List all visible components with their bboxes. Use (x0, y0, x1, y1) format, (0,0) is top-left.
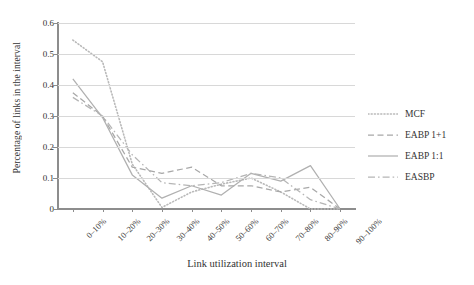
y-axis-ticks: 00.10.20.30.40.50.6 (26, 23, 54, 209)
legend-key-solid-icon (368, 151, 398, 161)
y-tick-label: 0.4 (28, 80, 54, 90)
x-tick-mark (251, 208, 252, 212)
y-axis-title-text: Percentage of links in the interval (12, 42, 22, 173)
x-tick-label: 20–30% (145, 216, 172, 243)
x-tick-mark (192, 208, 193, 212)
series-line (73, 97, 340, 209)
y-tick-label: 0 (28, 204, 54, 214)
x-tick-mark (221, 208, 222, 212)
legend-label: EABP 1+1 (405, 130, 446, 140)
legend-key-dashed-icon (368, 130, 398, 140)
y-tick-mark (53, 23, 57, 24)
y-tick-label: 0.1 (28, 173, 54, 183)
y-tick-mark (53, 147, 57, 148)
legend-label: EASBP (405, 172, 435, 182)
plot-area (58, 23, 355, 209)
x-tick-label: 30–40% (174, 216, 201, 243)
x-tick-mark (340, 208, 341, 212)
legend-key-dotted-icon (368, 109, 398, 119)
x-tick-label: 10–20% (115, 216, 142, 243)
gridline (58, 178, 355, 179)
y-tick-mark (53, 54, 57, 55)
chart-legend: MCFEABP 1+1EABP 1:1EASBP (368, 103, 468, 187)
y-tick-mark (53, 178, 57, 179)
gridline (58, 147, 355, 148)
y-tick-mark (53, 85, 57, 86)
x-tick-label: 80–90% (323, 216, 350, 243)
legend-label: EABP 1:1 (405, 151, 443, 161)
x-tick-label: 70–80% (293, 216, 320, 243)
legend-item-mcf[interactable]: MCF (368, 103, 468, 124)
gridline (58, 54, 355, 55)
legend-label: MCF (405, 109, 425, 119)
legend-item-eabp-1-1[interactable]: EABP 1:1 (368, 145, 468, 166)
x-tick-label: 90–100% (354, 216, 384, 246)
y-tick-mark (53, 116, 57, 117)
y-tick-label: 0.6 (28, 18, 54, 28)
y-tick-label: 0.3 (28, 111, 54, 121)
y-tick-label: 0.2 (28, 142, 54, 152)
legend-item-eabp-1-1[interactable]: EABP 1+1 (368, 124, 468, 145)
x-axis-title: Link utilization interval (0, 258, 474, 269)
x-tick-mark (103, 208, 104, 212)
y-tick-mark (53, 209, 57, 210)
y-axis-title: Percentage of links in the interval (8, 0, 26, 215)
x-tick-mark (310, 208, 311, 212)
series-line (73, 40, 340, 209)
x-tick-label: 0–10% (84, 216, 108, 240)
x-tick-mark (73, 208, 74, 212)
legend-item-easbp[interactable]: EASBP (368, 166, 468, 187)
y-tick-label: 0.5 (28, 49, 54, 59)
x-tick-label: 40–50% (204, 216, 231, 243)
x-tick-mark (132, 208, 133, 212)
x-tick-label: 50–60% (234, 216, 261, 243)
x-tick-mark (281, 208, 282, 212)
legend-key-dashdot-icon (368, 172, 398, 182)
gridline (58, 23, 355, 24)
gridline (58, 85, 355, 86)
chart-figure: Percentage of links in the interval 00.1… (0, 0, 474, 285)
x-tick-mark (162, 208, 163, 212)
gridline (58, 116, 355, 117)
x-tick-label: 60–70% (263, 216, 290, 243)
